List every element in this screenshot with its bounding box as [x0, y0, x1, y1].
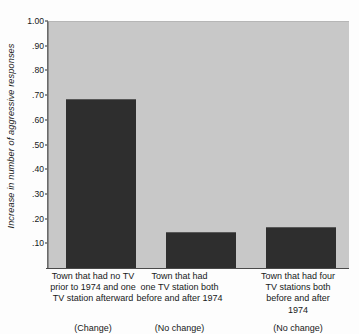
category-label-text: Town that had fourTV stations bothbefore…	[237, 271, 359, 316]
y-tick-label: .70	[32, 90, 44, 100]
bar	[166, 232, 236, 269]
plot-area	[48, 21, 349, 269]
y-tick-label: 1.00	[27, 16, 44, 26]
y-tick-label: .30	[32, 189, 44, 199]
category-note: (No change)	[117, 323, 242, 334]
category-label-line: Town that had four	[237, 271, 359, 282]
bar	[66, 99, 136, 269]
y-tick-label: .40	[32, 164, 44, 174]
y-axis-label: Increase in number of aggressive respons…	[0, 0, 22, 272]
y-tick-label: .80	[32, 65, 44, 75]
x-axis-category-labels: Town that had no TVprior to 1974 and one…	[0, 271, 359, 334]
y-axis-label-text: Increase in number of aggressive respons…	[6, 44, 16, 229]
category-label-line: Town that had	[117, 271, 242, 282]
category-label: Town that hadone TV station bothbefore a…	[117, 271, 242, 334]
category-label-line: one TV station both	[117, 282, 242, 293]
category-label-text: Town that hadone TV station bothbefore a…	[117, 271, 242, 305]
category-label-line: TV stations both	[237, 282, 359, 293]
category-label: Town that had fourTV stations bothbefore…	[237, 271, 359, 334]
y-tick-label: .10	[32, 238, 44, 248]
category-label-line: before and after 1974	[117, 293, 242, 304]
bar	[266, 227, 336, 269]
category-label-line: 1974	[237, 305, 359, 316]
x-axis-line	[46, 268, 349, 269]
y-tick-label: .90	[32, 41, 44, 51]
y-tick-label: .20	[32, 214, 44, 224]
category-label-line: before and after	[237, 293, 359, 304]
y-tick-label: .60	[32, 115, 44, 125]
y-tick-label: .50	[32, 140, 44, 150]
category-note: (No change)	[237, 323, 359, 334]
bar-chart-figure: Increase in number of aggressive respons…	[0, 0, 359, 334]
